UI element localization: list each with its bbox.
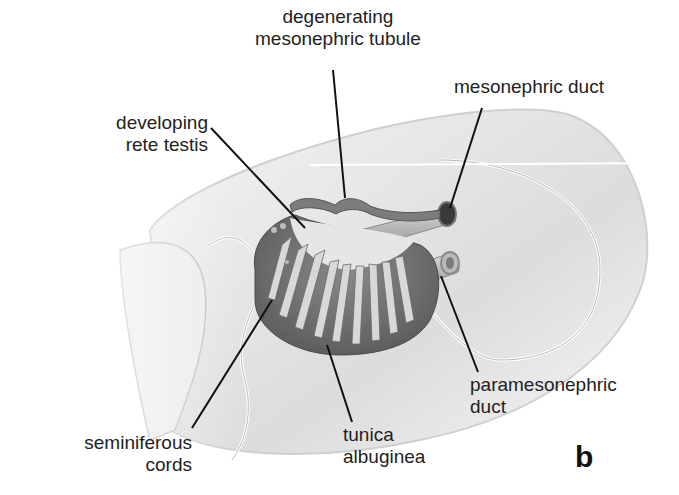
label-tunica-albuginea: tunica albuginea [343, 424, 425, 468]
label-seminiferous-cords: seminiferous cords [50, 432, 192, 476]
label-mesonephric-duct: mesonephric duct [454, 76, 604, 98]
label-line: developing [90, 112, 208, 134]
label-line: tunica [343, 424, 425, 446]
label-line: paramesonephric [470, 374, 617, 396]
label-developing-rete-testis: developing rete testis [90, 112, 208, 156]
label-line: seminiferous [50, 432, 192, 454]
label-degenerating-mesonephric-tubule: degenerating mesonephric tubule [255, 6, 421, 50]
diagram-canvas: degenerating mesonephric tubule mesoneph… [0, 0, 679, 495]
label-line: degenerating [255, 6, 421, 28]
panel-letter: b [575, 440, 593, 474]
label-line: mesonephric tubule [255, 28, 421, 50]
label-paramesonephric-duct: paramesonephric duct [470, 374, 617, 418]
label-line: rete testis [90, 134, 208, 156]
label-line: duct [470, 396, 617, 418]
gonad-illustration [0, 0, 679, 495]
label-line: mesonephric duct [454, 76, 604, 98]
label-line: albuginea [343, 446, 425, 468]
label-line: cords [50, 454, 192, 476]
